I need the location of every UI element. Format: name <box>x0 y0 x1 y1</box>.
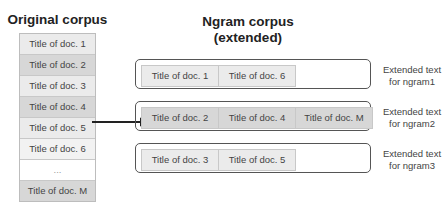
doc-cell-4: Title of doc. 4 <box>20 97 95 118</box>
ngram2-doc-3: Title of doc. M <box>296 108 372 128</box>
original-corpus-title: Original corpus <box>0 12 115 28</box>
ngram-box-1: Title of doc. 1 Title of doc. 6 <box>135 59 371 89</box>
ngram-title-line1: Ngram corpus <box>188 14 308 30</box>
doc-cell-2: Title of doc. 2 <box>20 55 95 76</box>
ngram-doc-list-2: Title of doc. 2 Title of doc. 4 Title of… <box>141 107 373 129</box>
ext-line2: for ngram1 <box>376 76 448 88</box>
ext-line2: for ngram3 <box>376 160 448 172</box>
ngram-doc-list-1: Title of doc. 1 Title of doc. 6 <box>141 65 296 87</box>
extended-text-ngram2: Extended text for ngram2 <box>376 106 448 130</box>
ngram-title-line2: (extended) <box>188 30 308 46</box>
ngram2-doc-1: Title of doc. 2 <box>142 108 219 128</box>
extended-text-ngram3: Extended text for ngram3 <box>376 148 448 172</box>
ngram3-doc-1: Title of doc. 3 <box>142 150 219 170</box>
ext-line2: for ngram2 <box>376 118 448 130</box>
doc-cell-5: Title of doc. 5 <box>20 118 95 139</box>
extended-text-ngram1: Extended text for ngram1 <box>376 64 448 88</box>
ngram-doc-list-3: Title of doc. 3 Title of doc. 5 <box>141 149 296 171</box>
doc-cell-ellipsis: ... <box>20 160 95 181</box>
ngram2-doc-2: Title of doc. 4 <box>219 108 296 128</box>
ext-line1: Extended text <box>376 64 448 76</box>
ngram-box-3: Title of doc. 3 Title of doc. 5 <box>135 143 371 173</box>
ngram3-doc-2: Title of doc. 5 <box>219 150 295 170</box>
ngram-corpus-title: Ngram corpus (extended) <box>188 14 308 46</box>
ext-line1: Extended text <box>376 106 448 118</box>
ext-line1: Extended text <box>376 148 448 160</box>
ngram-box-2: Title of doc. 2 Title of doc. 4 Title of… <box>135 101 371 131</box>
doc-cell-m: Title of doc. M <box>20 181 95 201</box>
ngram1-doc-2: Title of doc. 6 <box>219 66 295 86</box>
doc-cell-1: Title of doc. 1 <box>20 34 95 55</box>
original-corpus-list: Title of doc. 1 Title of doc. 2 Title of… <box>19 33 96 202</box>
ngram1-doc-1: Title of doc. 1 <box>142 66 219 86</box>
doc-cell-3: Title of doc. 3 <box>20 76 95 97</box>
doc-cell-6: Title of doc. 6 <box>20 139 95 160</box>
